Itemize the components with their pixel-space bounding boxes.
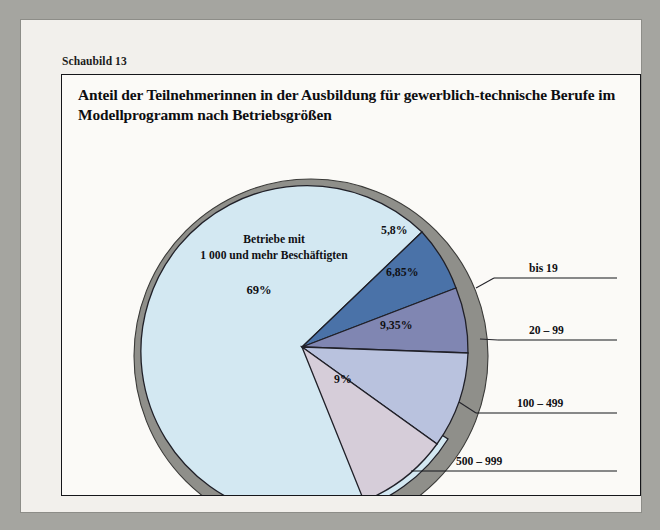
slice-percent-500-999: 9% <box>334 372 352 387</box>
main-slice-percent: 69% <box>246 283 271 298</box>
pie-chart-stage <box>62 75 640 495</box>
slice-percent-20-99: 6,85% <box>386 265 418 280</box>
chart-frame: Anteil der Teilnehmerinnen in der Ausbil… <box>61 74 641 496</box>
slice-percent-bis-19: 5,8% <box>381 223 408 238</box>
category-label-bis-19: bis 19 <box>529 262 558 275</box>
category-label-500-999: 500 – 999 <box>456 455 502 468</box>
pie-chart-svg <box>62 75 640 495</box>
main-slice-label-line2: 1 000 und mehr Beschäftigten <box>200 249 347 262</box>
figure-caption: Schaubild 13 <box>62 55 127 67</box>
category-label-100-499: 100 – 499 <box>517 397 563 410</box>
page-sheet: Schaubild 13 Anteil der Teilnehmerinnen … <box>21 20 641 512</box>
figure-root: Schaubild 13 Anteil der Teilnehmerinnen … <box>0 0 660 530</box>
slice-percent-100-499: 9,35% <box>380 318 412 333</box>
category-label-20-99: 20 – 99 <box>529 324 564 337</box>
main-slice-label-line1: Betriebe mit <box>243 233 304 246</box>
